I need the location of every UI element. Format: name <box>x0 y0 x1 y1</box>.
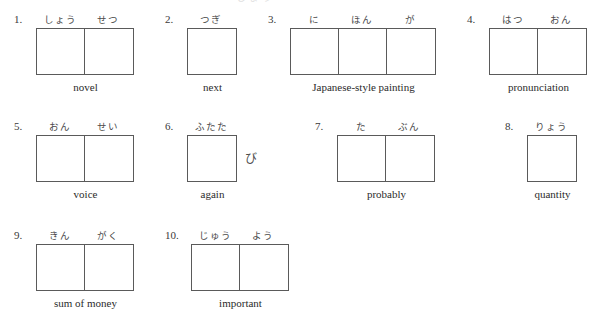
meaning-label: voice <box>36 188 135 200</box>
writing-cell[interactable] <box>291 29 339 74</box>
furigana-reading: がく <box>84 228 132 243</box>
writing-cell[interactable] <box>192 245 240 290</box>
cell-row <box>290 28 436 75</box>
furigana-reading: ふたた <box>187 119 235 134</box>
exercise-item-6: 6.ふたたびagain <box>165 119 238 200</box>
kanji-worksheet: しょう 1.しょうせつnovel2.つぎnext3.にほんがJapanese-s… <box>0 0 595 321</box>
cell-row <box>337 135 435 182</box>
writing-cell[interactable] <box>339 29 387 74</box>
item-headline: 4.はつおん <box>467 12 588 28</box>
furigana-reading: ほん <box>338 12 386 27</box>
okurigana-kana: び <box>245 149 257 166</box>
item-number: 4. <box>467 13 475 25</box>
writing-cell[interactable] <box>338 136 386 181</box>
writing-boxes <box>36 244 134 291</box>
exercise-item-2: 2.つぎnext <box>165 12 238 93</box>
writing-boxes: び <box>187 135 237 182</box>
writing-cell[interactable] <box>490 29 538 74</box>
item-number: 2. <box>165 13 173 25</box>
meaning-label: probably <box>337 188 436 200</box>
exercise-item-10: 10.じゅうようimportant <box>165 228 290 309</box>
item-headline: 8.りょう <box>505 119 578 135</box>
writing-cell[interactable] <box>85 245 133 290</box>
item-headline: 10.じゅうよう <box>165 228 290 244</box>
meaning-label: important <box>191 297 290 309</box>
item-number: 10. <box>165 229 179 241</box>
furigana-reading: おん <box>537 12 585 27</box>
meaning-label: novel <box>36 81 135 93</box>
cell-row <box>527 135 577 182</box>
furigana-row: ふたた <box>187 119 235 134</box>
writing-cell[interactable] <box>85 136 133 181</box>
writing-boxes <box>36 135 134 182</box>
writing-cell[interactable] <box>85 29 133 74</box>
writing-cell[interactable] <box>37 29 85 74</box>
meaning-label: quantity <box>527 188 578 200</box>
exercise-item-5: 5.おんせいvoice <box>14 119 135 200</box>
writing-boxes <box>36 28 134 75</box>
item-number: 6. <box>165 120 173 132</box>
writing-cell[interactable] <box>188 136 236 181</box>
writing-cell[interactable] <box>188 29 236 74</box>
furigana-reading: はつ <box>489 12 537 27</box>
writing-cell[interactable] <box>528 136 576 181</box>
cell-row <box>191 244 289 291</box>
item-number: 1. <box>14 13 22 25</box>
item-headline: 6.ふたた <box>165 119 238 135</box>
meaning-label: sum of money <box>36 297 135 309</box>
writing-boxes <box>290 28 436 75</box>
writing-boxes <box>527 135 577 182</box>
exercise-item-3: 3.にほんがJapanese-style painting <box>268 12 437 93</box>
writing-boxes <box>337 135 435 182</box>
item-headline: 9.きんがく <box>14 228 135 244</box>
furigana-reading: に <box>290 12 338 27</box>
cell-row <box>36 135 134 182</box>
furigana-row: しょうせつ <box>36 12 132 27</box>
furigana-row: たぶん <box>337 119 433 134</box>
furigana-reading: た <box>337 119 385 134</box>
furigana-row: つぎ <box>187 12 235 27</box>
exercise-item-7: 7.たぶんprobably <box>315 119 436 200</box>
furigana-row: にほんが <box>290 12 434 27</box>
clipped-header-label: しょう <box>236 0 356 3</box>
furigana-reading: りょう <box>527 119 575 134</box>
furigana-reading: せつ <box>84 12 132 27</box>
writing-cell[interactable] <box>386 136 434 181</box>
writing-boxes <box>187 28 237 75</box>
cell-row <box>36 244 134 291</box>
exercise-item-1: 1.しょうせつnovel <box>14 12 135 93</box>
cell-row <box>36 28 134 75</box>
writing-boxes <box>191 244 289 291</box>
item-number: 5. <box>14 120 22 132</box>
item-headline: 3.にほんが <box>268 12 437 28</box>
meaning-label: next <box>187 81 238 93</box>
furigana-row: じゅうよう <box>191 228 287 243</box>
cell-row <box>187 135 237 182</box>
furigana-reading: つぎ <box>187 12 235 27</box>
item-number: 9. <box>14 229 22 241</box>
writing-boxes <box>489 28 587 75</box>
furigana-row: はつおん <box>489 12 585 27</box>
furigana-reading: よう <box>239 228 287 243</box>
writing-cell[interactable] <box>387 29 435 74</box>
writing-cell[interactable] <box>240 245 288 290</box>
item-number: 3. <box>268 13 276 25</box>
furigana-reading: しょう <box>36 12 84 27</box>
item-headline: 5.おんせい <box>14 119 135 135</box>
exercise-item-4: 4.はつおんpronunciation <box>467 12 588 93</box>
cell-row <box>489 28 587 75</box>
item-headline: 2.つぎ <box>165 12 238 28</box>
furigana-reading: ぶん <box>385 119 433 134</box>
writing-cell[interactable] <box>37 245 85 290</box>
furigana-reading: じゅう <box>191 228 239 243</box>
furigana-reading: おん <box>36 119 84 134</box>
furigana-row: きんがく <box>36 228 132 243</box>
writing-cell[interactable] <box>37 136 85 181</box>
item-headline: 7.たぶん <box>315 119 436 135</box>
furigana-reading: きん <box>36 228 84 243</box>
exercise-item-8: 8.りょうquantity <box>505 119 578 200</box>
meaning-label: again <box>187 188 238 200</box>
writing-cell[interactable] <box>538 29 586 74</box>
furigana-row: りょう <box>527 119 575 134</box>
cell-row <box>187 28 237 75</box>
